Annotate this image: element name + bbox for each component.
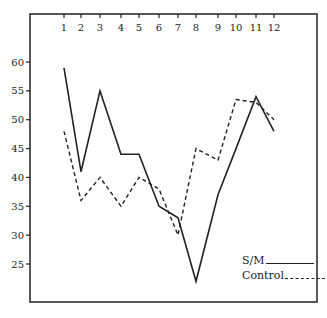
y-tick-label: 35 bbox=[11, 201, 24, 212]
x-tick-label: 5 bbox=[136, 22, 142, 33]
y-tick-label: 25 bbox=[11, 259, 24, 270]
x-tick-label: 12 bbox=[268, 22, 281, 33]
legend-item-control: Control bbox=[242, 269, 325, 282]
y-tick-label: 45 bbox=[11, 143, 24, 154]
series-line-sm bbox=[64, 68, 274, 281]
x-tick-label: 2 bbox=[78, 22, 84, 33]
y-tick-label: 60 bbox=[11, 57, 24, 68]
series-line-control bbox=[64, 100, 274, 236]
legend-label: Control bbox=[242, 269, 284, 282]
x-tick-label: 10 bbox=[230, 22, 243, 33]
x-tick-label: 3 bbox=[97, 22, 103, 33]
y-tick-label: 55 bbox=[11, 85, 24, 96]
x-axis-ticks: 123456789101112 bbox=[61, 14, 281, 33]
x-tick-label: 1 bbox=[61, 22, 67, 33]
legend-dashed-line-icon bbox=[285, 278, 325, 279]
x-tick-label: 9 bbox=[215, 22, 221, 33]
legend-label: S/M bbox=[242, 254, 265, 267]
x-tick-label: 8 bbox=[193, 22, 199, 33]
legend-item-sm: S/M bbox=[242, 254, 314, 267]
y-tick-label: 50 bbox=[11, 114, 24, 125]
y-tick-label: 40 bbox=[11, 172, 24, 183]
y-axis-ticks: 6055504540353025 bbox=[11, 57, 30, 270]
x-tick-label: 11 bbox=[250, 22, 263, 33]
x-tick-label: 7 bbox=[175, 22, 181, 33]
legend-solid-line-icon bbox=[266, 263, 314, 264]
x-tick-label: 6 bbox=[156, 22, 162, 33]
y-tick-label: 30 bbox=[11, 230, 24, 241]
x-tick-label: 4 bbox=[118, 22, 124, 33]
